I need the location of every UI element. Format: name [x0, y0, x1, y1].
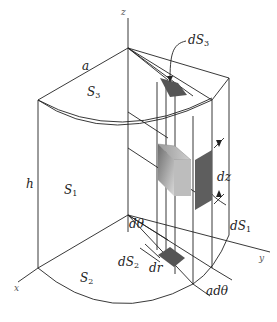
- dr-label: dr: [149, 262, 162, 274]
- cylindrical-sector-diagram: z y x a h S3 S1 S2 dS3 dS1 dS2 dz dr dθ …: [0, 0, 277, 322]
- z-axis-label: z: [121, 8, 126, 17]
- x-axis-label: x: [14, 284, 19, 293]
- x-axis: [18, 268, 38, 282]
- dS3-label: dS3: [188, 34, 209, 48]
- dtheta-label: dθ: [129, 218, 144, 230]
- dS1-label: dS1: [230, 220, 251, 234]
- S1-label: S1: [64, 184, 77, 198]
- top-radius-a: [38, 48, 128, 100]
- dz-label: dz: [217, 171, 231, 183]
- dS3-element: [160, 78, 187, 97]
- adtheta-label: adθ: [206, 285, 228, 297]
- dS2-label: dS2: [118, 256, 139, 270]
- dS1-element: [195, 150, 212, 210]
- height-h-label: h: [26, 178, 34, 190]
- S3-label: S3: [87, 86, 100, 100]
- y-axis-label: y: [259, 254, 264, 263]
- diagram-drawing: [0, 0, 277, 322]
- radius-a-label: a: [82, 60, 89, 72]
- S2-label: S2: [80, 272, 93, 286]
